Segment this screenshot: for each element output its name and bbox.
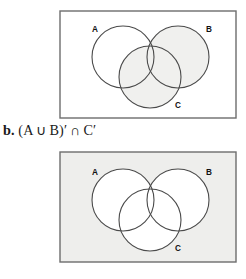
set-label-c-bottom: C bbox=[175, 244, 181, 253]
prime-symbol-2: ′ bbox=[93, 122, 96, 138]
union-symbol: ∪ bbox=[36, 122, 46, 138]
venn-figure-top: A B C bbox=[59, 10, 237, 119]
expression-item-label: b. bbox=[3, 122, 15, 138]
set-label-c-top: C bbox=[175, 101, 181, 110]
venn-diagram-page: A B C b. (A ∪ B)′ ∩ C′ bbox=[0, 0, 246, 279]
expression-set-c: C bbox=[83, 122, 93, 138]
intersect-symbol: ∩ bbox=[70, 122, 80, 138]
set-label-a-bottom: A bbox=[92, 168, 98, 177]
expression-caption: b. (A ∪ B)′ ∩ C′ bbox=[3, 119, 203, 141]
expression-set-b: B bbox=[50, 122, 60, 138]
set-label-b-top: B bbox=[206, 25, 212, 34]
venn-figure-bottom: A B C bbox=[59, 151, 237, 263]
venn-svg-top: A B C bbox=[59, 10, 237, 119]
venn-svg-bottom: A B C bbox=[59, 151, 237, 263]
set-label-b-bottom: B bbox=[206, 168, 212, 177]
expression-set-a: A bbox=[23, 122, 33, 138]
set-label-a-top: A bbox=[92, 25, 98, 34]
